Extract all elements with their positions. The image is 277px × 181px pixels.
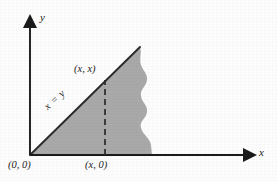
x-axis-label: x [259,147,264,158]
x-axis-arrow-icon [243,148,257,162]
origin-point-label: (0, 0) [8,160,31,171]
y-axis-arrow-icon [23,14,37,28]
math-figure: y x (0, 0) (x, 0) (x, x) x = y [0,0,277,181]
line-point-label: (x, x) [74,64,96,75]
figure-canvas [0,0,277,181]
y-axis-label: y [40,12,45,23]
foot-point-label: (x, 0) [85,160,107,171]
